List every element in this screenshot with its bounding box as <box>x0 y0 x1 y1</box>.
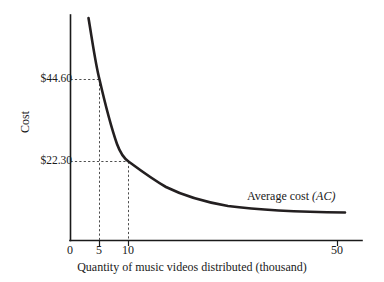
average-cost-curve <box>89 18 346 213</box>
y-axis-title: Cost <box>19 96 31 148</box>
x-axis-title: Quantity of music videos distributed (th… <box>0 261 384 273</box>
average-cost-chart: $44.60 $22.30 0 5 10 50 Cost Quantity of… <box>0 0 384 282</box>
x-tick-label-10: 10 <box>115 244 141 256</box>
curve-annotation-text: Average cost <box>247 189 312 203</box>
curve-annotation-symbol: (AC) <box>312 189 335 203</box>
y-tick-label-2230: $22.30 <box>26 155 72 167</box>
x-tick-label-0: 0 <box>57 244 83 256</box>
x-tick-label-50: 50 <box>324 244 350 256</box>
chart-canvas <box>0 0 384 282</box>
y-tick-label-4460: $44.60 <box>26 73 72 85</box>
curve-annotation-average-cost: Average cost (AC) <box>247 190 335 202</box>
x-tick-label-5: 5 <box>86 244 112 256</box>
